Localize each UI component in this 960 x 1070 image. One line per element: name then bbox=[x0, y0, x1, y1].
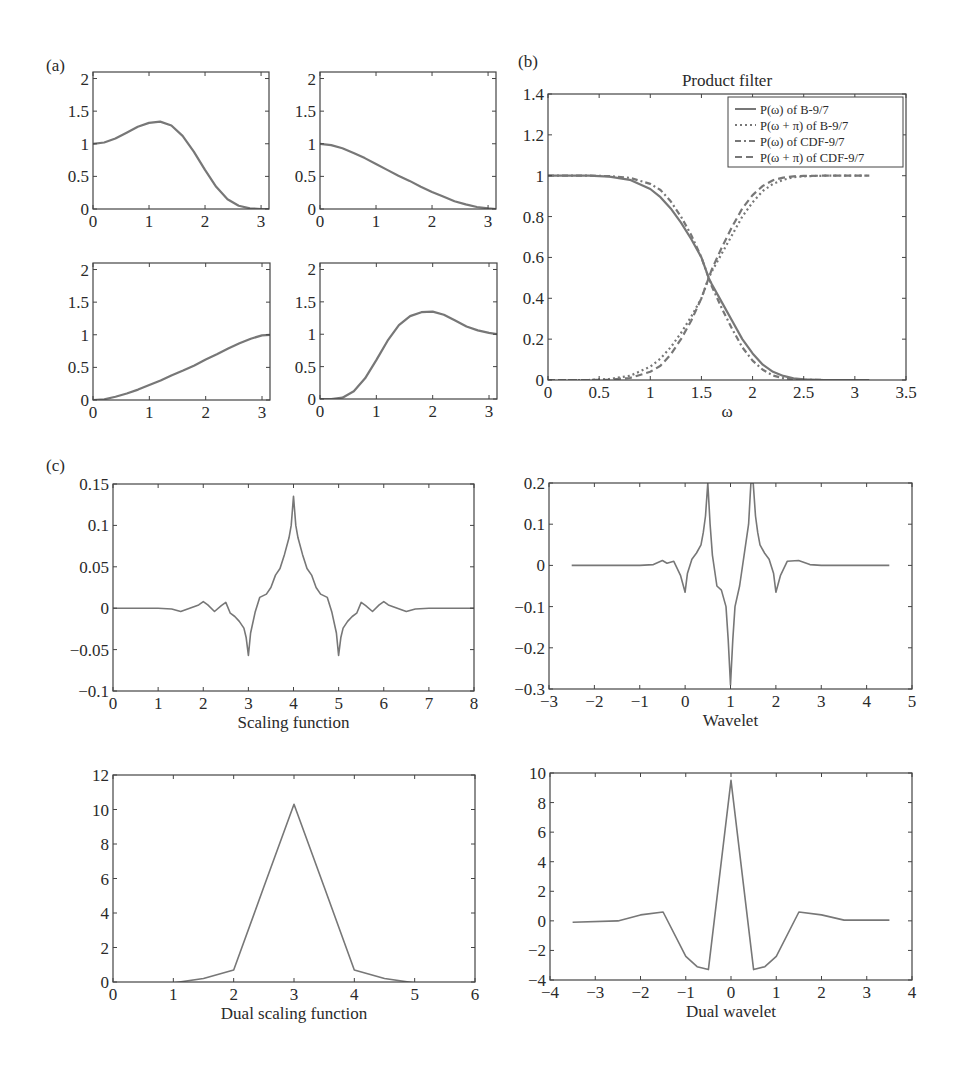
x-tick-label: 1 bbox=[372, 212, 381, 231]
x-tick-label: 1 bbox=[726, 692, 735, 711]
x-tick-label: 0 bbox=[109, 694, 118, 713]
x-tick-label: 4 bbox=[350, 985, 359, 1004]
x-tick-label: 3 bbox=[817, 692, 826, 711]
legend-entry: P(ω) of B-9/7 bbox=[760, 103, 829, 117]
axes-frame bbox=[93, 72, 269, 209]
y-tick-label: 1 bbox=[81, 326, 90, 345]
y-tick-label: 0.5 bbox=[68, 358, 89, 377]
x-tick-label: 6 bbox=[471, 985, 480, 1004]
y-tick-label: 0.2 bbox=[523, 330, 544, 349]
y-tick-label: 0 bbox=[101, 599, 110, 618]
y-tick-label: 2 bbox=[101, 939, 110, 958]
x-tick-label: 0.5 bbox=[589, 383, 610, 402]
x-tick-label: 5 bbox=[908, 692, 917, 711]
x-tick-label: 4 bbox=[289, 694, 298, 713]
y-tick-label: 10 bbox=[92, 801, 109, 820]
x-tick-label: 4 bbox=[908, 983, 917, 1002]
x-axis-label: Dual wavelet bbox=[686, 1002, 776, 1021]
y-tick-label: 0.6 bbox=[523, 248, 544, 267]
y-tick-label: 8 bbox=[101, 835, 110, 854]
x-tick-label: −1 bbox=[677, 983, 695, 1002]
chart-a3: 012300.511.52 bbox=[68, 261, 270, 422]
y-tick-label: 0 bbox=[538, 912, 547, 931]
y-tick-label: 0 bbox=[308, 390, 317, 409]
y-tick-label: 0 bbox=[101, 973, 110, 992]
legend-entry: P(ω + π) of CDF-9/7 bbox=[760, 151, 864, 165]
y-tick-label: 2 bbox=[81, 261, 90, 280]
x-tick-label: 1 bbox=[145, 403, 154, 422]
y-tick-label: 8 bbox=[538, 794, 547, 813]
y-tick-label: 0.1 bbox=[88, 516, 109, 535]
x-tick-label: 2 bbox=[428, 212, 437, 231]
y-tick-label: 0 bbox=[81, 200, 90, 219]
panel-label-a: (a) bbox=[46, 56, 65, 76]
y-tick-label: 4 bbox=[101, 904, 110, 923]
chart-b: 00.511.522.533.500.20.40.60.811.21.4Prod… bbox=[523, 71, 917, 421]
x-tick-label: −2 bbox=[631, 983, 649, 1002]
legend: P(ω) of B-9/7P(ω + π) of B-9/7P(ω) of CD… bbox=[728, 97, 903, 167]
y-tick-label: −0.1 bbox=[78, 682, 109, 701]
series-line bbox=[113, 496, 474, 655]
x-tick-label: 1.5 bbox=[691, 383, 712, 402]
y-tick-label: 2 bbox=[81, 70, 90, 89]
axes-frame bbox=[550, 773, 912, 980]
y-tick-label: 6 bbox=[101, 870, 110, 889]
x-tick-label: 0 bbox=[316, 212, 325, 231]
y-tick-label: 0 bbox=[308, 200, 317, 219]
x-tick-label: 0 bbox=[681, 692, 690, 711]
x-tick-label: 7 bbox=[425, 694, 434, 713]
y-tick-label: 1.4 bbox=[523, 85, 545, 104]
chart-a2: 012300.511.52 bbox=[295, 70, 496, 231]
y-tick-label: 0.5 bbox=[295, 358, 316, 377]
x-tick-label: 2 bbox=[201, 403, 210, 422]
x-tick-label: 3 bbox=[484, 212, 493, 231]
x-tick-label: 0 bbox=[89, 403, 98, 422]
chart-a1: 012300.511.52 bbox=[68, 70, 269, 231]
x-tick-label: 0 bbox=[109, 985, 118, 1004]
y-tick-label: 1 bbox=[81, 135, 90, 154]
x-tick-label: 1 bbox=[772, 983, 781, 1002]
series-line bbox=[93, 122, 269, 209]
y-tick-label: 0.5 bbox=[68, 167, 89, 186]
y-tick-label: 0.8 bbox=[523, 208, 544, 227]
series-line bbox=[548, 176, 869, 380]
y-tick-label: 1.2 bbox=[523, 126, 544, 145]
x-tick-label: 3 bbox=[257, 212, 266, 231]
chart-c2: −3−2−1012345−0.3−0.2−0.100.10.2Wavelet bbox=[514, 474, 916, 730]
y-tick-label: 1 bbox=[536, 167, 545, 186]
x-tick-label: 3 bbox=[863, 983, 872, 1002]
chart-c1: 012345678−0.1−0.0500.050.10.15Scaling fu… bbox=[70, 475, 479, 732]
x-tick-label: 3 bbox=[851, 383, 860, 402]
x-tick-label: 3 bbox=[290, 985, 299, 1004]
y-tick-label: 1.5 bbox=[295, 102, 316, 121]
x-axis-label: Scaling function bbox=[238, 713, 350, 732]
y-tick-label: 2 bbox=[538, 882, 547, 901]
x-tick-label: 3 bbox=[485, 402, 494, 421]
y-tick-label: −0.2 bbox=[514, 639, 545, 658]
x-tick-label: 3.5 bbox=[895, 383, 916, 402]
chart-title: Product filter bbox=[682, 71, 773, 90]
x-tick-label: 0 bbox=[89, 212, 98, 231]
panel-label-b: (b) bbox=[518, 52, 538, 72]
x-tick-label: 6 bbox=[380, 694, 389, 713]
x-tick-label: 2 bbox=[772, 692, 781, 711]
y-tick-label: 1.5 bbox=[295, 293, 316, 312]
x-tick-label: 2 bbox=[229, 985, 238, 1004]
x-axis-label: Wavelet bbox=[703, 711, 759, 730]
axes-frame bbox=[320, 263, 497, 399]
y-tick-label: −0.1 bbox=[514, 598, 545, 617]
y-tick-label: 0.5 bbox=[295, 167, 316, 186]
panel-label-c: (c) bbox=[46, 456, 65, 476]
x-tick-label: 2 bbox=[199, 694, 208, 713]
plots-canvas: 012300.511.52012300.511.52012300.511.520… bbox=[0, 0, 960, 1070]
y-tick-label: 4 bbox=[538, 853, 547, 872]
y-tick-label: 1.5 bbox=[68, 102, 89, 121]
y-tick-label: −4 bbox=[528, 971, 547, 990]
y-tick-label: 0.1 bbox=[524, 515, 545, 534]
x-tick-label: 1 bbox=[372, 402, 381, 421]
series-line bbox=[320, 144, 496, 209]
x-tick-label: 3 bbox=[244, 694, 253, 713]
x-tick-label: 2.5 bbox=[793, 383, 814, 402]
x-tick-label: 1 bbox=[169, 985, 178, 1004]
chart-c3: 0123456024681012Dual scaling function bbox=[92, 766, 479, 1023]
